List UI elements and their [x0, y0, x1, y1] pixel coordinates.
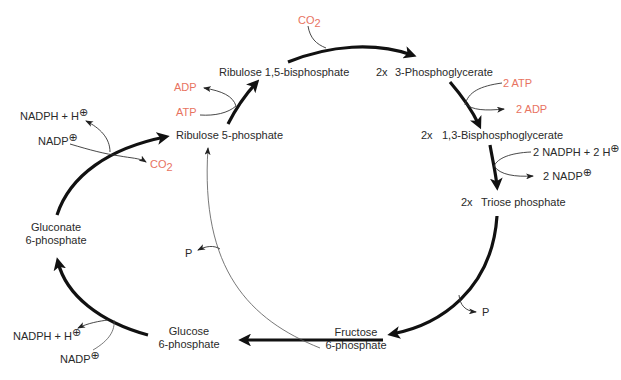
carboxylation-arrow	[288, 47, 412, 62]
label-fructose-6-phosphate-line2: 6-phosphate	[325, 339, 386, 351]
label-6pgdh-co2: CO2	[150, 158, 173, 173]
label-fructose-6-phosphate-line1: Fructose	[335, 326, 378, 338]
6pg-dehydrogenase-arrow	[57, 137, 165, 215]
fructose-to-ribulose-thin-arrow	[207, 148, 320, 348]
6pgdh-co2-output-arrow	[120, 156, 146, 162]
label-2-adp: 2 ADP	[516, 103, 547, 115]
label-g6pdh-nadph: NADPH + H⊕	[13, 326, 81, 342]
label-2-nadph: 2 NADPH + 2 H⊕	[533, 142, 620, 158]
phosphate-release-left-arrow	[198, 246, 220, 250]
label-3-phosphoglycerate: 3-Phosphoglycerate	[395, 66, 493, 78]
label-prk-atp: ATP	[176, 106, 197, 118]
label-triose-phosphate-stoich: 2x	[461, 196, 473, 208]
nadph-input-line	[494, 152, 531, 166]
label-glucose-6-phosphate-line2: 6-phosphate	[158, 338, 219, 350]
prk-adp-output-arrow	[204, 88, 236, 106]
label-prk-adp: ADP	[174, 81, 197, 93]
label-g6pdh-nadp: NADP⊕	[60, 349, 100, 365]
label-6pgdh-nadph: NADPH + H⊕	[20, 106, 88, 122]
6pgdh-nadph-output-arrow	[86, 121, 110, 152]
label-phosphate-right: P	[482, 306, 489, 318]
label-ribulose-5-phosphate: Ribulose 5-phosphate	[176, 129, 283, 141]
g6pdh-nadp-input-line	[93, 320, 114, 350]
label-2-atp: 2 ATP	[503, 77, 532, 89]
metabolic-cycle-diagram: Ribulose 1,5-bisphosphate 2x 3-Phosphogl…	[0, 0, 621, 380]
label-2-nadp: 2 NADP⊕	[543, 166, 592, 182]
label-gluconate-6-phosphate-line2: 6-phosphate	[25, 234, 86, 246]
g6p-dehydrogenase-arrow	[58, 262, 148, 335]
prk-atp-input-line	[200, 106, 236, 115]
phosphoribulokinase-arrow	[228, 83, 256, 124]
label-phosphate-left: P	[185, 247, 192, 259]
label-co2-carboxylation: CO2	[298, 14, 321, 29]
g6pdh-nadph-output-arrow	[78, 320, 108, 328]
co2-input-line	[308, 26, 326, 48]
nadp-output-arrow	[494, 166, 533, 176]
label-ribulose-1-5-bisphosphate: Ribulose 1,5-bisphosphate	[219, 66, 349, 78]
label-1-3-bisphosphoglycerate-stoich: 2x	[421, 129, 433, 141]
reduction-arrow	[490, 145, 497, 186]
label-3-phosphoglycerate-stoich: 2x	[376, 66, 388, 78]
label-glucose-6-phosphate-line1: Glucose	[169, 325, 209, 337]
atp-input-line	[465, 83, 502, 105]
label-gluconate-6-phosphate-line1: Gluconate	[31, 221, 81, 233]
label-1-3-bisphosphoglycerate: 1,3-Bisphosphoglycerate	[442, 129, 563, 141]
phosphorylation-arrow	[450, 82, 479, 125]
label-triose-phosphate: Triose phosphate	[481, 196, 566, 208]
